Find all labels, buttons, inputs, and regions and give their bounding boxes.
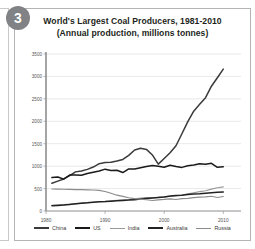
- data-series-lines: [52, 69, 223, 206]
- gridlines: [46, 54, 241, 189]
- chart-legend: ChinaUSIndiaAustraliaRussia: [14, 220, 251, 236]
- legend-item-china[interactable]: China: [34, 225, 66, 231]
- y-tick-label: 1000: [32, 164, 43, 169]
- chart-title: World's Largest Coal Producers, 1981-201…: [14, 16, 251, 28]
- legend-swatch-icon: [148, 227, 163, 229]
- legend-label: US: [93, 225, 101, 231]
- y-tick-label: 500: [34, 187, 42, 192]
- y-tick-label: 0: [39, 209, 42, 214]
- plot-area: 0500100015002000250030003500 19801990200…: [14, 44, 251, 241]
- legend-label: Australia: [166, 225, 187, 231]
- legend-swatch-icon: [34, 227, 49, 229]
- line-chart-svg: 0500100015002000250030003500 19801990200…: [14, 44, 251, 241]
- legend-label: Russia: [214, 225, 230, 231]
- page-edge-gutter: [0, 8, 9, 241]
- legend-label: China: [52, 225, 66, 231]
- figure-number-badge: 3: [6, 6, 30, 30]
- legend-swatch-icon: [75, 227, 90, 229]
- legend-swatch-icon: [110, 228, 125, 229]
- legend-item-russia[interactable]: Russia: [196, 225, 230, 231]
- chart-title-block: World's Largest Coal Producers, 1981-201…: [14, 16, 251, 39]
- y-axis-tick-labels: 0500100015002000250030003500: [32, 52, 43, 214]
- legend-label: India: [128, 225, 140, 231]
- legend-item-india[interactable]: India: [110, 225, 140, 231]
- legend-item-australia[interactable]: Australia: [148, 225, 187, 231]
- y-tick-label: 1500: [32, 142, 43, 147]
- y-tick-label: 3500: [32, 52, 43, 57]
- legend-item-us[interactable]: US: [75, 225, 101, 231]
- y-tick-label: 3000: [32, 74, 43, 79]
- chart-subtitle: (Annual production, millions tonnes): [14, 28, 251, 40]
- y-tick-label: 2500: [32, 97, 43, 102]
- series-line-russia: [52, 189, 223, 200]
- y-tick-label: 2000: [32, 119, 43, 124]
- legend-swatch-icon: [196, 228, 211, 229]
